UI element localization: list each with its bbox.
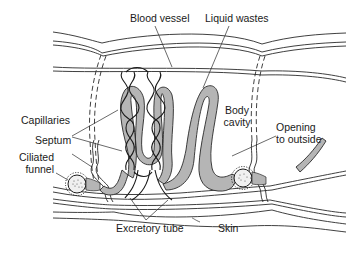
- blood-vessel-lower: [53, 71, 346, 82]
- label-body-cavity: Body cavity: [220, 104, 254, 128]
- bladder-tube: [163, 86, 236, 191]
- leader-opening: [232, 136, 276, 156]
- label-liquid-wastes: Liquid wastes: [205, 12, 269, 24]
- capillary-vessel-down-3: [132, 170, 150, 200]
- leader-capillaries-2: [72, 137, 122, 151]
- label-septum: Septum: [35, 134, 71, 146]
- leader-skin: [192, 218, 200, 222]
- label-opening-to-outside: Opening to outside: [276, 121, 322, 145]
- lower-skin-2: [53, 218, 346, 232]
- nephridia-diagram: Blood vessel Liquid wastes Capillaries B…: [0, 0, 363, 254]
- leader-septum: [72, 154, 92, 167]
- lower-wall-4: [53, 203, 346, 217]
- septum-right-wavy-a: [249, 140, 263, 202]
- septum-right-b: [256, 56, 265, 140]
- lower-wall-3: [53, 199, 346, 213]
- label-capillaries: Capillaries: [21, 114, 70, 126]
- septum-left-a: [89, 55, 101, 185]
- leader-blood-vessel: [155, 26, 172, 67]
- label-skin: Skin: [218, 222, 238, 234]
- leader-ciliated-funnel: [56, 173, 68, 180]
- septum-left-b: [94, 56, 106, 185]
- label-blood-vessel: Blood vessel: [130, 12, 190, 24]
- label-excretory-tube: Excretory tube: [116, 222, 184, 234]
- upper-skin-outer: [53, 32, 346, 44]
- label-ciliated-funnel: Ciliated funnel: [14, 151, 54, 175]
